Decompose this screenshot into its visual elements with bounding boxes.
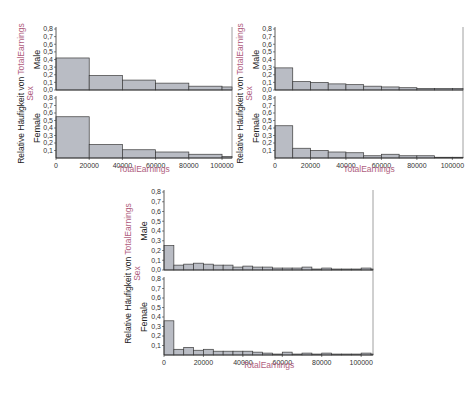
y-tick-label: 0,2: [262, 71, 272, 78]
y-tick-label: 0,6: [262, 41, 272, 48]
histogram-bar: [184, 347, 194, 355]
y-tick-label: 0,4: [151, 313, 161, 320]
x-tick-label: 20000: [194, 359, 214, 366]
y-tick-label: 0,2: [262, 139, 272, 146]
y-axis-title-variable: TotalEarnings: [123, 203, 133, 255]
histogram-bar: [328, 152, 346, 158]
y-axis-group-title: Sex: [25, 85, 35, 100]
histogram-bar: [243, 351, 253, 355]
histogram-bar: [156, 83, 189, 90]
group-label-male: Male: [139, 221, 149, 241]
x-tick-label: 0: [273, 162, 277, 169]
histogram-bar: [275, 68, 293, 90]
histogram-bar: [381, 154, 399, 158]
group-label-female: Female: [251, 113, 261, 143]
y-axis-title-variable: TotalEarnings: [16, 23, 26, 75]
y-tick-label: 0,8: [262, 94, 272, 101]
histogram-bar: [164, 321, 174, 355]
histogram-bar: [223, 265, 233, 270]
x-axis-title: TotalEarnings: [118, 164, 170, 174]
y-axis-group-title: Sex: [132, 265, 142, 280]
y-tick-label: 0,3: [262, 132, 272, 139]
y-tick-label: 0,8: [151, 188, 161, 195]
histogram-bar: [89, 76, 122, 90]
cropped-caption-remnant: [0, 0, 471, 4]
histogram-bar: [302, 267, 312, 270]
x-tick-label: 0: [162, 359, 166, 366]
group-label-female: Female: [32, 113, 42, 143]
y-tick-label: 0,2: [43, 139, 53, 146]
y-tick-label: 0,8: [43, 25, 53, 32]
y-tick-label: 0,1: [43, 79, 53, 86]
histogram-bar: [203, 349, 213, 355]
histogram-bar: [275, 126, 293, 158]
histogram-bar: [293, 148, 311, 158]
histogram-bin-10000: 0,00,10,20,30,40,50,60,70,8Male0,10,20,3…: [218, 18, 471, 188]
y-tick-label: 0,4: [151, 227, 161, 234]
histogram-bin-20000: 0,00,10,20,30,40,50,60,70,8Male0,10,20,3…: [0, 18, 238, 188]
histogram-bar: [282, 352, 292, 355]
histogram-bar: [213, 351, 223, 355]
y-tick-label: 0,0: [262, 86, 272, 93]
histogram-bar: [253, 267, 263, 270]
y-tick-label: 0,2: [43, 71, 53, 78]
y-axis-group-title: Sex: [244, 85, 254, 100]
y-tick-label: 0,3: [262, 64, 272, 71]
y-tick-label: 0,5: [151, 304, 161, 311]
histogram-bar: [203, 264, 213, 270]
histogram-bar: [223, 351, 233, 355]
y-tick-label: 0,7: [43, 33, 53, 40]
y-tick-label: 0,8: [151, 275, 161, 282]
histogram-bar: [156, 152, 189, 158]
histogram-bar: [310, 82, 328, 90]
y-tick-label: 0,7: [151, 285, 161, 292]
y-tick-label: 0,6: [43, 41, 53, 48]
histogram-bar: [233, 267, 243, 270]
y-tick-label: 0,7: [262, 33, 272, 40]
y-tick-label: 0,6: [151, 294, 161, 301]
histogram-bar: [293, 82, 311, 90]
histogram-bar: [164, 246, 174, 270]
histogram-bar: [310, 151, 328, 159]
y-tick-label: 0,6: [151, 208, 161, 215]
histogram-bar: [233, 351, 243, 355]
histogram-bar: [89, 145, 122, 159]
y-tick-label: 0,0: [151, 266, 161, 273]
histogram-bar: [263, 267, 273, 270]
y-tick-label: 0,5: [151, 218, 161, 225]
y-tick-label: 0,1: [43, 147, 53, 154]
x-tick-label: 80000: [312, 359, 332, 366]
histogram-bar: [346, 85, 364, 90]
histogram-svg: 0,00,10,20,30,40,50,60,70,8Male0,10,20,3…: [0, 18, 238, 188]
y-tick-label: 0,8: [43, 94, 53, 101]
y-tick-label: 0,7: [151, 198, 161, 205]
x-tick-label: 20000: [79, 162, 99, 169]
x-tick-label: 100000: [441, 162, 464, 169]
y-tick-label: 0,2: [151, 247, 161, 254]
y-tick-label: 0,6: [43, 109, 53, 116]
y-tick-label: 0,1: [262, 79, 272, 86]
histogram-bar: [364, 86, 382, 90]
y-tick-label: 0,1: [262, 147, 272, 154]
histogram-bar: [194, 350, 204, 355]
x-tick-label: 0: [54, 162, 58, 169]
histogram-bar: [213, 265, 223, 270]
histogram-svg: 0,00,10,20,30,40,50,60,70,8Male0,10,20,3…: [104, 182, 384, 382]
x-axis-title: TotalEarnings: [243, 360, 295, 370]
x-tick-label: 20000: [301, 162, 321, 169]
x-axis-title: TotalEarnings: [343, 164, 395, 174]
y-tick-label: 0,2: [151, 332, 161, 339]
y-tick-label: 0,1: [151, 257, 161, 264]
histogram-bar: [56, 58, 89, 90]
histogram-bar: [174, 349, 184, 355]
y-tick-label: 0,0: [43, 86, 53, 93]
y-tick-label: 0,3: [43, 64, 53, 71]
y-tick-label: 0,5: [43, 117, 53, 124]
group-label-male: Male: [251, 50, 261, 70]
histogram-bar: [381, 87, 399, 90]
histogram-bar: [174, 265, 184, 270]
y-tick-label: 0,7: [43, 102, 53, 109]
y-tick-label: 0,6: [262, 109, 272, 116]
y-axis-title-variable: TotalEarnings: [235, 23, 245, 75]
y-tick-label: 0,7: [262, 102, 272, 109]
